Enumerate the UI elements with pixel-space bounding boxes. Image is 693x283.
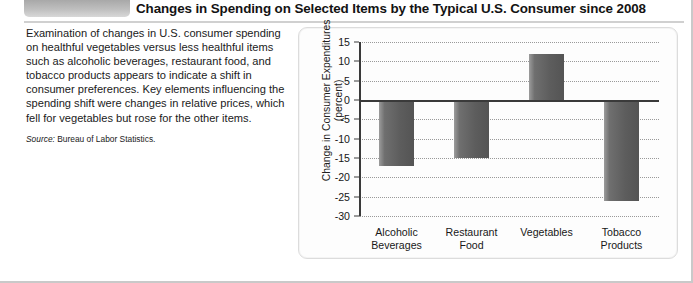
category-label: Vegetables xyxy=(520,226,572,239)
category-label: RestaurantFood xyxy=(446,226,498,251)
y-tick-label: -25 xyxy=(335,191,350,203)
y-tick-label: -5 xyxy=(341,113,350,125)
category-label-line: Vegetables xyxy=(520,226,572,239)
page-title: Changes in Spending on Selected Items by… xyxy=(136,1,684,16)
bar xyxy=(454,100,489,158)
category-label: TobaccoProducts xyxy=(601,226,643,251)
source-label: Source: xyxy=(26,134,55,144)
gridline xyxy=(359,42,659,43)
y-tick-label: -15 xyxy=(335,152,350,164)
plot-area: 151050-5-10-15-20-25-30 AlcoholicBeverag… xyxy=(359,42,659,216)
bar xyxy=(379,100,414,166)
y-axis-line xyxy=(359,42,361,216)
y-axis-title-line1: Change in Consumer Expenditures xyxy=(321,10,333,190)
category-label-line: Food xyxy=(446,239,498,252)
gridline xyxy=(359,61,659,62)
source-note: Source: Bureau of Labor Statistics. xyxy=(26,134,294,144)
category-label-line: Products xyxy=(601,239,643,252)
category-label-line: Tobacco xyxy=(601,226,643,239)
y-tick-label: -30 xyxy=(335,210,350,222)
category-label-line: Restaurant xyxy=(446,226,498,239)
y-tick-label: 10 xyxy=(338,55,350,67)
y-tick-label: 15 xyxy=(338,36,350,48)
description-paragraph: Examination of changes in U.S. consumer … xyxy=(26,26,294,125)
description-block: Examination of changes in U.S. consumer … xyxy=(26,26,294,144)
title-divider xyxy=(24,21,684,23)
corner-tab-decoration xyxy=(24,0,130,17)
y-tick-label: 5 xyxy=(344,75,350,87)
category-label-line: Beverages xyxy=(371,239,422,252)
zero-axis-line xyxy=(359,100,659,102)
y-tick-label: 0 xyxy=(344,94,350,106)
gridline xyxy=(359,216,659,217)
source-text: Bureau of Labor Statistics. xyxy=(57,134,155,144)
y-tick-label: -20 xyxy=(335,171,350,183)
chart-panel: Change in Consumer Expenditures (percent… xyxy=(298,27,678,259)
bar xyxy=(604,100,639,201)
gridline xyxy=(359,81,659,82)
figure-page: Changes in Spending on Selected Items by… xyxy=(0,0,693,283)
y-tick-label: -10 xyxy=(335,133,350,145)
category-label: AlcoholicBeverages xyxy=(371,226,422,251)
bar xyxy=(529,54,564,100)
category-label-line: Alcoholic xyxy=(371,226,422,239)
